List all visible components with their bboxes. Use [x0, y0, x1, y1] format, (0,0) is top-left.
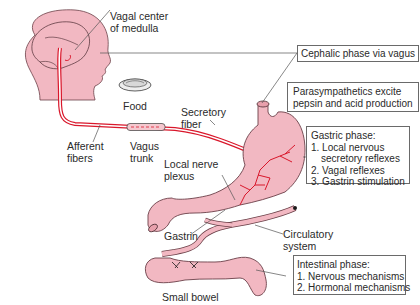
label-gastrin: Gastrin [164, 230, 198, 242]
label-line: system [283, 240, 316, 252]
label-small-bowel: Small bowel [162, 291, 219, 303]
label-afferent-fibers: Afferent fibers [67, 140, 104, 164]
label-line: Secretory [181, 106, 226, 118]
box-line: Cephalic phase via vagus [301, 48, 415, 60]
box-gastric-phase: Gastric phase: 1. Local nervous secretor… [306, 126, 410, 184]
box-cephalic-phase: Cephalic phase via vagus [297, 45, 419, 62]
label-line: Circulatory [283, 228, 333, 240]
food-illustration [119, 79, 151, 91]
label-line: fiber [181, 118, 201, 130]
label-line: Local nerve [164, 158, 218, 170]
box-line: pepsin and acid production [293, 98, 413, 110]
box-item: 3. Gastrin stimulation [311, 176, 405, 188]
box-line: Parasympathetics excite [293, 86, 413, 98]
label-secretory-fiber: Secretory fiber [181, 106, 226, 130]
box-item: 1. Local nervous [311, 142, 405, 154]
box-item: secretory reflexes [311, 153, 405, 165]
box-item: 2. Hormonal mechanisms [297, 282, 402, 294]
label-food: Food [123, 100, 147, 112]
label-vagus-trunk: Vagus trunk [130, 140, 159, 164]
label-line: trunk [130, 152, 153, 164]
box-intestinal-phase: Intestinal phase: 1. Nervous mechanisms … [293, 255, 406, 295]
label-line: Vagus [130, 140, 159, 152]
label-line: plexus [164, 170, 194, 182]
head-illustration [25, 10, 110, 100]
box-item: 1. Nervous mechanisms [297, 271, 402, 283]
label-line: of medulla [110, 22, 158, 34]
label-line: Afferent [67, 140, 104, 152]
box-title: Intestinal phase: [297, 259, 402, 271]
label-line: Vagal center [110, 10, 168, 22]
box-item: 2. Vagal reflexes [311, 165, 405, 177]
label-line: fibers [67, 152, 93, 164]
small-bowel-illustration [145, 257, 266, 295]
label-circulatory-system: Circulatory system [283, 228, 333, 252]
label-vagal-center: Vagal center of medulla [110, 10, 168, 34]
box-title: Gastric phase: [311, 130, 405, 142]
label-local-nerve-plexus: Local nerve plexus [164, 158, 218, 182]
box-parasympathetics: Parasympathetics excite pepsin and acid … [287, 82, 419, 112]
